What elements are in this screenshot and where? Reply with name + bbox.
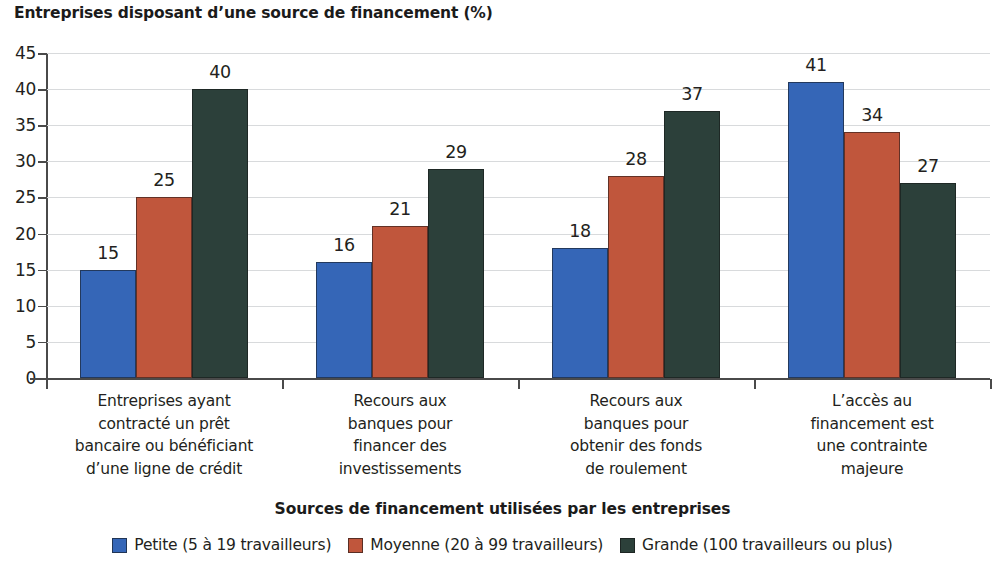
bar [900,183,956,378]
gridline [46,125,990,126]
category-label-line: une contrainte [746,435,998,458]
category-label-line: investissements [274,458,526,481]
x-axis-category-label: L’accès aufinancement estune contraintem… [746,390,998,480]
x-axis-tick-mark [518,379,520,389]
y-axis-tick-label: 35 [2,115,36,135]
y-axis-tick-mark [38,89,47,91]
y-axis-tick-label: 40 [2,79,36,99]
y-axis-tick-label: 30 [2,151,36,171]
y-axis-tick-mark [38,306,47,308]
y-axis-tick-mark [38,197,47,199]
category-label-line: banques pour [274,413,526,436]
bar-value-label: 37 [681,84,703,104]
y-axis-tick-label: 5 [2,332,36,352]
bar-value-label: 34 [861,105,883,125]
bar [192,89,248,378]
bar-value-label: 15 [97,243,119,263]
bar-value-label: 27 [917,156,939,176]
category-label-line: bancaire ou bénéficiant [38,435,290,458]
gridline [46,89,990,90]
y-axis-tick-label: 45 [2,43,36,63]
y-axis-tick-label: 15 [2,260,36,280]
bar-value-label: 41 [805,55,827,75]
x-axis-tick-mark [46,379,48,389]
bar-value-label: 18 [569,221,591,241]
legend-swatch-icon [620,538,635,553]
legend-item[interactable]: Moyenne (20 à 99 travailleurs) [348,536,603,554]
bar [136,197,192,378]
legend-item[interactable]: Petite (5 à 19 travailleurs) [112,536,331,554]
category-label-line: financer des [274,435,526,458]
category-label-line: financement est [746,413,998,436]
bar [664,111,720,378]
legend-label: Petite (5 à 19 travailleurs) [134,536,331,554]
bar-value-label: 28 [625,149,647,169]
x-axis-line [30,378,990,380]
bar-value-label: 40 [209,62,231,82]
y-axis-tick-mark [38,53,47,55]
bar [372,226,428,378]
x-axis-title: Sources de financement utilisées par les… [0,500,1005,518]
category-label-line: majeure [746,458,998,481]
legend-swatch-icon [112,538,127,553]
legend-item[interactable]: Grande (100 travailleurs ou plus) [620,536,893,554]
category-label-line: Entreprises ayant [38,390,290,413]
category-label-line: d’une ligne de crédit [38,458,290,481]
x-axis-tick-mark [754,379,756,389]
y-axis-tick-mark [38,125,47,127]
legend-label: Grande (100 travailleurs ou plus) [642,536,893,554]
legend-swatch-icon [348,538,363,553]
x-axis-category-labels: Entreprises ayantcontracté un prêtbancai… [46,390,990,495]
category-label-line: L’accès au [746,390,998,413]
category-label-line: de roulement [510,458,762,481]
legend-label: Moyenne (20 à 99 travailleurs) [370,536,603,554]
category-label-line: Recours aux [510,390,762,413]
y-axis-tick-label: 10 [2,296,36,316]
category-label-line: Recours aux [274,390,526,413]
bar-value-label: 29 [445,142,467,162]
bar [844,132,900,378]
bar [608,176,664,378]
y-axis-tick-mark [38,378,47,380]
y-axis-tick-mark [38,234,47,236]
y-axis-tick-mark [38,161,47,163]
legend: Petite (5 à 19 travailleurs)Moyenne (20 … [0,536,1005,554]
bar [428,169,484,378]
chart-title: Entreprises disposant d’une source de fi… [14,4,493,22]
bar [316,262,372,378]
x-axis-category-label: Recours auxbanques pourobtenir des fonds… [510,390,762,480]
bar [552,248,608,378]
category-label-line: contracté un prêt [38,413,290,436]
category-label-line: banques pour [510,413,762,436]
x-axis-tick-mark [990,379,992,389]
y-axis-tick-mark [38,342,47,344]
bar [788,82,844,378]
x-axis-tick-mark [282,379,284,389]
gridline [46,53,990,54]
y-axis-tick-label: 25 [2,187,36,207]
bar-value-label: 25 [153,170,175,190]
bar [80,270,136,378]
x-axis-category-label: Entreprises ayantcontracté un prêtbancai… [38,390,290,480]
y-axis-tick-label: 20 [2,224,36,244]
x-axis-category-label: Recours auxbanques pourfinancer desinves… [274,390,526,480]
y-axis-tick-labels: 454035302520151050 [0,53,36,379]
bar-value-label: 21 [389,199,411,219]
y-axis-tick-mark [38,270,47,272]
bar-value-label: 16 [333,235,355,255]
plot-area [46,53,990,378]
category-label-line: obtenir des fonds [510,435,762,458]
